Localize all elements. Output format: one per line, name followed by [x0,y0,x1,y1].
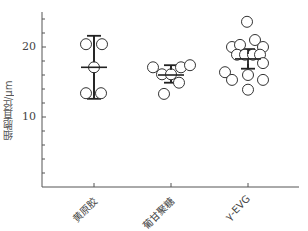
data-point [243,70,254,81]
data-point [81,88,92,99]
data-point [97,39,108,50]
data-point [159,88,170,99]
y-tick-label-20: 20 [14,40,36,53]
y-tick-label-10: 10 [14,110,36,123]
data-point [243,84,254,95]
data-point [148,62,159,73]
dot-plot-chart [0,0,308,231]
data-points [81,16,269,99]
data-point [96,88,107,99]
data-point [227,74,238,85]
data-point [185,60,196,71]
data-point [258,74,269,85]
data-point [174,77,185,88]
data-point [235,39,246,50]
data-point [242,16,253,27]
data-point [81,39,92,50]
